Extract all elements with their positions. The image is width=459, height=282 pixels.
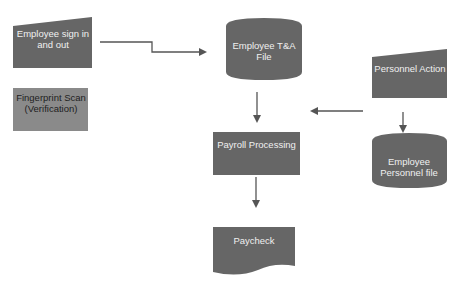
node-label-payroll: Payroll Processing (213, 136, 300, 152)
arrow-signin-to-tafile (100, 42, 205, 52)
node-label-fingerprint: Fingerprint Scan (Verification) (15, 88, 87, 118)
node-label-personnel-action: Personnel Action (373, 60, 447, 76)
node-label-ta-file: Employee T&A File (232, 38, 296, 64)
node-label-personnel-file: Employee Personnel file (378, 154, 440, 180)
node-label-paycheck: Paycheck (213, 232, 295, 248)
node-label-sign-in: Employee sign in and out (15, 26, 91, 52)
